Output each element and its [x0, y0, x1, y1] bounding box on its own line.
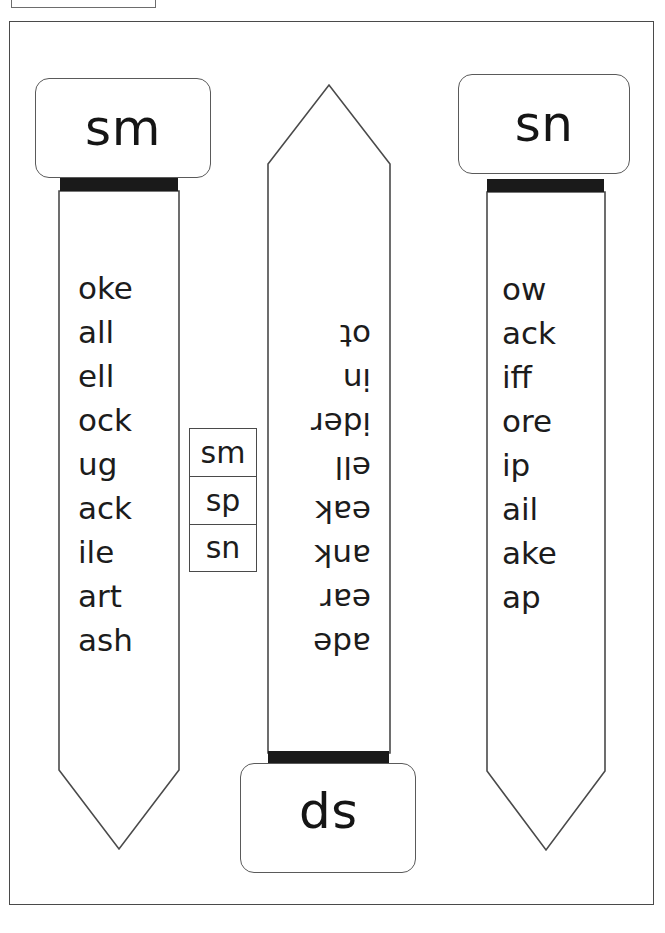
word-strip-sm[interactable]: oke all ell ock ug ack ile art ash	[58, 190, 180, 850]
word-item: in	[247, 358, 371, 402]
word-item: iff	[502, 355, 622, 399]
word-item: ow	[502, 267, 622, 311]
word-item: ot	[247, 314, 371, 358]
top-crop-artifact	[11, 0, 156, 8]
word-item: oke	[78, 266, 200, 310]
word-list-sm: oke all ell ock ug ack ile art ash	[58, 190, 200, 662]
word-item: ell	[247, 446, 371, 490]
key-box-label: sm	[201, 438, 246, 468]
word-item: ash	[78, 618, 200, 662]
blend-label-text-sm: sm	[85, 103, 161, 153]
word-strip-sp[interactable]: ade ear ank eak ell ider in ot	[267, 84, 391, 754]
key-box-sp[interactable]: sp	[189, 476, 257, 524]
connector-bar-sm	[60, 178, 178, 191]
word-list-sp: ade ear ank eak ell ider in ot	[247, 314, 391, 754]
blend-label-text-sn: sn	[515, 99, 574, 149]
word-item: ear	[247, 578, 371, 622]
word-item: ider	[247, 402, 371, 446]
worksheet-page: sm oke all ell ock ug ack ile art ash sp…	[0, 0, 665, 933]
key-box-label: sn	[206, 533, 241, 563]
word-item: ank	[247, 534, 371, 578]
word-item: ap	[502, 575, 622, 619]
word-item: ock	[78, 398, 200, 442]
word-item: ack	[78, 486, 200, 530]
blend-label-card-sn[interactable]: sn	[458, 74, 630, 174]
key-box-label: sp	[206, 486, 241, 516]
key-box-sm[interactable]: sm	[189, 428, 257, 476]
blend-label-text-sp: sp	[299, 793, 358, 843]
word-item: ake	[502, 531, 622, 575]
word-item: ade	[247, 622, 371, 666]
word-item: art	[78, 574, 200, 618]
word-strip-sn[interactable]: ow ack iff ore ip ail ake ap	[486, 191, 606, 851]
word-item: all	[78, 310, 200, 354]
word-item: ell	[78, 354, 200, 398]
blend-key-stack: sm sp sn	[189, 428, 257, 572]
word-item: ile	[78, 530, 200, 574]
word-item: ip	[502, 443, 622, 487]
word-item: ug	[78, 442, 200, 486]
word-item: eak	[247, 490, 371, 534]
word-list-sn: ow ack iff ore ip ail ake ap	[486, 191, 622, 619]
key-box-sn[interactable]: sn	[189, 524, 257, 572]
connector-bar-sn	[487, 179, 604, 192]
blend-label-card-sm[interactable]: sm	[35, 78, 211, 178]
word-item: ack	[502, 311, 622, 355]
word-item: ail	[502, 487, 622, 531]
word-item: ore	[502, 399, 622, 443]
blend-label-card-sp[interactable]: sp	[240, 763, 416, 873]
